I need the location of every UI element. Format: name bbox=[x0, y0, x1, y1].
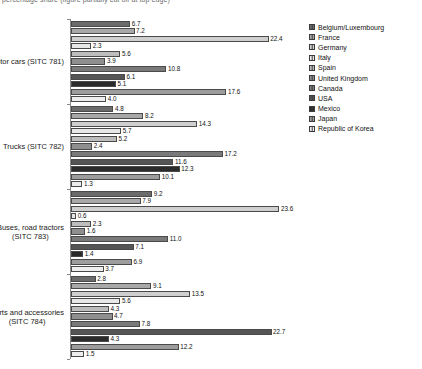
bar bbox=[71, 74, 125, 80]
bar-value-label: 3.9 bbox=[105, 59, 115, 65]
bar-value-label: 2.4 bbox=[92, 144, 102, 150]
bar-value-label: 17.2 bbox=[223, 151, 237, 157]
legend-item: Canada bbox=[309, 83, 421, 93]
bar-row: 17.6 bbox=[70, 89, 299, 95]
bar bbox=[71, 251, 83, 257]
bar bbox=[71, 143, 92, 149]
bar-row: 4.3 bbox=[70, 336, 299, 342]
legend-item: Italy bbox=[309, 53, 421, 63]
bar bbox=[71, 113, 143, 119]
bar-value-label: 5.7 bbox=[121, 128, 131, 134]
bar-row: 3.7 bbox=[70, 266, 299, 272]
bar bbox=[71, 121, 197, 127]
bar bbox=[71, 344, 179, 350]
bar-row: 11.6 bbox=[70, 159, 299, 165]
bar-value-label: 2.8 bbox=[96, 276, 106, 282]
chart-legend: Belgium/LuxembourgFranceGermanyItalySpai… bbox=[309, 22, 421, 134]
legend-item-label: Japan bbox=[318, 115, 337, 122]
bar-row: 7.8 bbox=[70, 321, 299, 327]
legend-swatch-icon bbox=[309, 95, 315, 101]
legend-item: USA bbox=[309, 93, 421, 103]
bar-value-label: 0.6 bbox=[76, 213, 86, 219]
bar bbox=[71, 228, 85, 234]
bar-row: 1.6 bbox=[70, 228, 299, 234]
bar-row: 22.7 bbox=[70, 329, 299, 335]
category-label-line: Parts and accessories bbox=[0, 307, 64, 317]
bar-value-label: 9.2 bbox=[152, 191, 162, 197]
legend-item-label: Republic of Korea bbox=[318, 125, 374, 132]
legend-item: Mexico bbox=[309, 104, 421, 114]
bar bbox=[71, 198, 141, 204]
bar-row: 8.2 bbox=[70, 113, 299, 119]
legend-item-label: USA bbox=[318, 95, 332, 102]
bar bbox=[71, 298, 120, 304]
legend-swatch-icon bbox=[309, 44, 315, 50]
bar-row: 1.4 bbox=[70, 251, 299, 257]
bar-value-label: 7.2 bbox=[135, 28, 145, 34]
category-label: Parts and accessories(SITC 784) bbox=[0, 307, 64, 326]
bar bbox=[71, 151, 223, 157]
legend-swatch-icon bbox=[309, 75, 315, 81]
bar bbox=[71, 244, 134, 250]
bar-row: 12.3 bbox=[70, 166, 299, 172]
bar-row: 9.1 bbox=[70, 283, 299, 289]
legend-item-label: Canada bbox=[318, 85, 343, 92]
bar-value-label: 22.4 bbox=[269, 36, 283, 42]
legend-item: Belgium/Luxembourg bbox=[309, 22, 421, 32]
bar bbox=[71, 191, 152, 197]
bar-value-label: 2.3 bbox=[91, 43, 101, 49]
legend-item-label: Germany bbox=[318, 44, 347, 51]
bar bbox=[71, 28, 135, 34]
bar bbox=[71, 159, 173, 165]
bar-row: 10.1 bbox=[70, 174, 299, 180]
bar bbox=[71, 336, 109, 342]
bar-group: Buses, road tractors(SITC 783)9.27.923.6… bbox=[70, 189, 299, 274]
bar-row: 3.9 bbox=[70, 58, 299, 64]
bar-row: 23.6 bbox=[70, 206, 299, 212]
legend-item-label: United Kingdom bbox=[318, 75, 368, 82]
bar bbox=[71, 58, 105, 64]
bar-value-label: 11.6 bbox=[173, 159, 186, 165]
legend-swatch-icon bbox=[309, 126, 315, 132]
category-label-line: Trucks (SITC 782) bbox=[3, 142, 64, 152]
bar-value-label: 1.5 bbox=[84, 351, 94, 357]
bar-value-label: 7.8 bbox=[140, 321, 150, 327]
bar-row: 9.2 bbox=[70, 191, 299, 197]
axis-tick bbox=[67, 104, 70, 105]
category-label: Trucks (SITC 782) bbox=[3, 142, 64, 152]
bar-row: 4.7 bbox=[70, 313, 299, 319]
bar bbox=[71, 306, 109, 312]
category-label: Motor cars (SITC 781) bbox=[0, 57, 64, 67]
bar-row: 5.6 bbox=[70, 298, 299, 304]
bar-row: 10.8 bbox=[70, 66, 299, 72]
bar-row: 2.3 bbox=[70, 221, 299, 227]
legend-item-label: Mexico bbox=[318, 105, 340, 112]
bar-value-label: 10.8 bbox=[166, 66, 180, 72]
bar-row: 7.2 bbox=[70, 28, 299, 34]
bar-group: Trucks (SITC 782)4.88.214.35.75.22.417.2… bbox=[70, 104, 299, 189]
legend-swatch-icon bbox=[309, 34, 315, 40]
bar bbox=[71, 313, 113, 319]
bar-row: 5.2 bbox=[70, 136, 299, 142]
legend-item-label: France bbox=[318, 34, 340, 41]
bar bbox=[71, 36, 269, 42]
bar-row: 22.4 bbox=[70, 36, 299, 42]
bar-value-label: 12.2 bbox=[179, 344, 193, 350]
legend-swatch-icon bbox=[309, 106, 315, 112]
legend-item: Germany bbox=[309, 42, 421, 52]
bar bbox=[71, 51, 120, 57]
bar-row: 6.9 bbox=[70, 259, 299, 265]
bar-value-label: 10.1 bbox=[160, 174, 174, 180]
bar-value-label: 12.3 bbox=[180, 166, 194, 172]
bar-value-label: 4.7 bbox=[113, 314, 123, 320]
bar bbox=[71, 351, 84, 357]
bar bbox=[71, 206, 279, 212]
bar bbox=[71, 136, 117, 142]
bar-value-label: 2.3 bbox=[91, 221, 101, 227]
bar-value-label: 22.7 bbox=[272, 329, 286, 335]
bar bbox=[71, 106, 113, 112]
bar bbox=[71, 321, 140, 327]
bar-row: 0.6 bbox=[70, 213, 299, 219]
bar-row: 14.3 bbox=[70, 121, 299, 127]
legend-swatch-icon bbox=[309, 85, 315, 91]
